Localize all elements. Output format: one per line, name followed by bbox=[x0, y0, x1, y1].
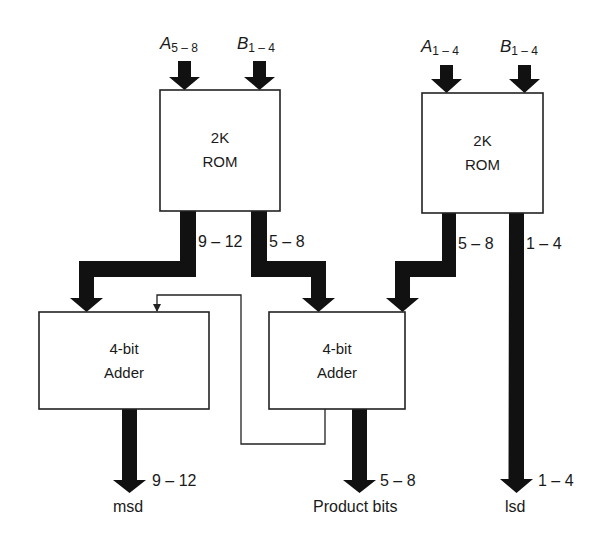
multiplier-diagram bbox=[0, 0, 604, 545]
bus-rom-left-5-8 bbox=[251, 211, 335, 312]
input-arrow-a58 bbox=[169, 61, 200, 90]
output-arrow-product bbox=[343, 409, 376, 493]
bus-rom-left-9-12 bbox=[70, 211, 196, 312]
bus-label-rom-left-5-8: 5 – 8 bbox=[269, 234, 305, 250]
input-arrow-b14-right bbox=[509, 65, 540, 93]
bus-label-out-1-4: 1 – 4 bbox=[538, 473, 574, 489]
label-input-b14-left: B1 – 4 bbox=[237, 35, 275, 54]
carry-arrowhead bbox=[153, 304, 161, 312]
output-label-msd: msd bbox=[113, 499, 143, 515]
label-input-a14: A1 – 4 bbox=[421, 38, 459, 57]
rom-right-label: 2KROM bbox=[422, 129, 543, 177]
bus-label-rom-right-1-4: 1 – 4 bbox=[526, 236, 562, 252]
input-arrow-a14 bbox=[431, 65, 462, 93]
bus-label-out-9-12: 9 – 12 bbox=[152, 473, 196, 489]
bus-label-rom-right-5-8: 5 – 8 bbox=[458, 236, 494, 252]
label-input-a58: A5 – 8 bbox=[160, 35, 198, 54]
bus-label-out-5-8: 5 – 8 bbox=[380, 473, 416, 489]
adder-left-label: 4-bitAdder bbox=[39, 337, 209, 385]
bus-rom-right-5-8 bbox=[386, 213, 456, 312]
output-label-product: Product bits bbox=[313, 499, 397, 515]
rom-left-label: 2KROM bbox=[160, 126, 280, 174]
adder-mid-label: 4-bitAdder bbox=[269, 337, 405, 385]
bus-label-rom-left-9-12: 9 – 12 bbox=[198, 234, 242, 250]
label-input-b14-right: B1 – 4 bbox=[500, 38, 538, 57]
input-arrow-b14-left bbox=[244, 61, 275, 90]
output-arrow-msd bbox=[113, 409, 146, 493]
output-label-lsd: lsd bbox=[505, 499, 525, 515]
bus-rom-right-1-4-lsd bbox=[500, 213, 533, 493]
